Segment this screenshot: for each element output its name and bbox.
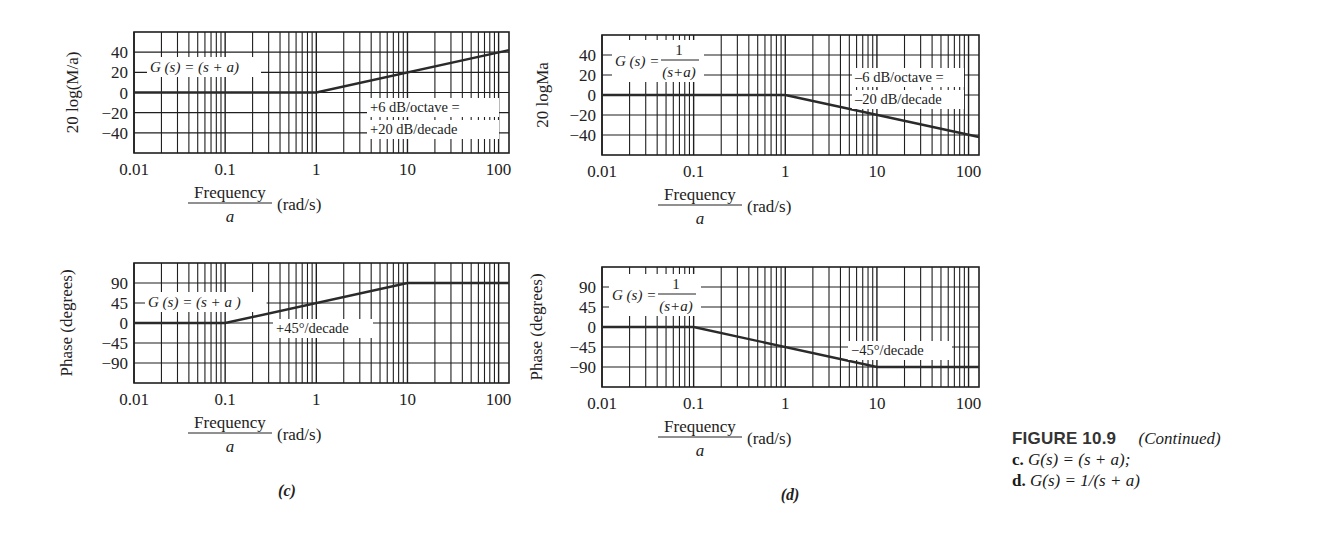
caption-text-c: G(s) = (s + a); bbox=[1028, 450, 1130, 469]
y-tick-label: 90 bbox=[579, 278, 596, 297]
y-tick-label: −90 bbox=[569, 358, 596, 377]
x-axis-unit: (rad/s) bbox=[277, 425, 321, 444]
transfer-function-lhs: G (s) = bbox=[615, 53, 659, 70]
y-tick-label: 20 bbox=[579, 66, 596, 85]
slope-annotation: –6 dB/octave = bbox=[854, 69, 944, 85]
y-tick-label: 0 bbox=[120, 314, 129, 333]
slope-annotation: +45°/decade bbox=[276, 320, 349, 336]
panel-label-d: (d) bbox=[781, 486, 800, 504]
x-tick-label: 0.1 bbox=[215, 390, 236, 409]
x-tick-label: 1 bbox=[781, 394, 790, 413]
x-axis-label-denominator: a bbox=[696, 209, 705, 228]
x-tick-label: 100 bbox=[956, 394, 982, 413]
transfer-function-denominator: (s+a) bbox=[659, 298, 692, 315]
figure-caption: FIGURE 10.9 (Continued) c. G(s) = (s + a… bbox=[1012, 428, 1221, 491]
transfer-function-lhs: G (s) = bbox=[612, 287, 656, 304]
figure-continued: (Continued) bbox=[1138, 429, 1220, 448]
x-axis-label-denominator: a bbox=[226, 207, 235, 226]
x-tick-label: 10 bbox=[868, 162, 885, 181]
y-tick-label: 40 bbox=[579, 46, 596, 65]
chart-c-phase: 90450−45−900.010.1110100Phase (degrees)F… bbox=[57, 263, 511, 456]
x-tick-label: 0.1 bbox=[683, 162, 704, 181]
y-tick-label: −40 bbox=[101, 124, 128, 143]
x-axis-unit: (rad/s) bbox=[277, 195, 321, 214]
transfer-function-numerator: 1 bbox=[672, 276, 680, 292]
x-tick-label: 0.1 bbox=[215, 160, 236, 179]
y-tick-label: −90 bbox=[101, 354, 128, 373]
chart-d-phase: 90450−45−900.010.1110100Phase (degrees)F… bbox=[527, 267, 981, 460]
x-axis-label-denominator: a bbox=[696, 441, 705, 460]
x-tick-label: 100 bbox=[486, 160, 512, 179]
x-tick-label: 10 bbox=[868, 394, 885, 413]
panel-label-c: (c) bbox=[278, 482, 296, 500]
y-axis-label: 20 logMa bbox=[533, 62, 552, 128]
figure-number: FIGURE 10.9 bbox=[1012, 429, 1116, 448]
x-axis-unit: (rad/s) bbox=[747, 197, 791, 216]
x-tick-label: 10 bbox=[399, 160, 416, 179]
x-tick-label: 100 bbox=[486, 390, 512, 409]
x-axis-label-numerator: Frequency bbox=[194, 413, 266, 432]
slope-annotation: –20 dB/decade bbox=[854, 91, 942, 107]
caption-text-d: G(s) = 1/(s + a) bbox=[1030, 471, 1140, 490]
y-axis-label: 20 log(M/a) bbox=[63, 52, 82, 134]
y-tick-label: 45 bbox=[111, 294, 128, 313]
y-tick-label: 45 bbox=[579, 298, 596, 317]
transfer-function-numerator: 1 bbox=[675, 42, 683, 58]
x-tick-label: 0.01 bbox=[119, 390, 149, 409]
y-tick-label: 0 bbox=[588, 86, 597, 105]
x-tick-label: 0.1 bbox=[683, 394, 704, 413]
slope-annotation: +20 dB/decade bbox=[370, 121, 458, 137]
caption-prefix-d: d. bbox=[1012, 471, 1026, 490]
x-axis-unit: (rad/s) bbox=[747, 429, 791, 448]
y-tick-label: −20 bbox=[569, 106, 596, 125]
y-tick-label: 90 bbox=[111, 274, 128, 293]
slope-annotation: +6 dB/octave = bbox=[370, 99, 460, 115]
y-tick-label: −45 bbox=[101, 334, 128, 353]
x-tick-label: 10 bbox=[399, 390, 416, 409]
slope-annotation: −45°/decade bbox=[851, 342, 924, 358]
transfer-function-label: G (s) = (s + a ) bbox=[148, 294, 241, 311]
caption-line-c: c. G(s) = (s + a); bbox=[1012, 449, 1221, 470]
x-tick-label: 1 bbox=[312, 160, 321, 179]
y-tick-label: 0 bbox=[120, 84, 129, 103]
x-axis-label-denominator: a bbox=[226, 437, 235, 456]
x-axis-label-numerator: Frequency bbox=[664, 417, 736, 436]
x-tick-label: 0.01 bbox=[587, 394, 617, 413]
x-tick-label: 100 bbox=[956, 162, 982, 181]
y-axis-label: Phase (degrees) bbox=[527, 273, 546, 380]
y-tick-label: −20 bbox=[101, 104, 128, 123]
caption-prefix-c: c. bbox=[1012, 450, 1024, 469]
x-axis-label-numerator: Frequency bbox=[664, 185, 736, 204]
x-tick-label: 0.01 bbox=[587, 162, 617, 181]
transfer-function-denominator: (s+a) bbox=[662, 64, 695, 81]
chart-d-magnitude: 40200−20−400.010.111010020 logMaFrequenc… bbox=[533, 35, 981, 228]
x-axis-label-numerator: Frequency bbox=[194, 183, 266, 202]
y-axis-label: Phase (degrees) bbox=[57, 269, 76, 376]
x-tick-label: 0.01 bbox=[119, 160, 149, 179]
y-tick-label: −45 bbox=[569, 338, 596, 357]
y-tick-label: 0 bbox=[588, 318, 597, 337]
x-tick-label: 1 bbox=[781, 162, 790, 181]
caption-line-d: d. G(s) = 1/(s + a) bbox=[1012, 470, 1221, 491]
transfer-function-label: G (s) = (s + a) bbox=[150, 59, 239, 76]
y-tick-label: −40 bbox=[569, 126, 596, 145]
y-tick-label: 40 bbox=[111, 43, 128, 62]
chart-c-magnitude: 40200−20−400.010.111010020 log(M/a)Frequ… bbox=[63, 32, 511, 226]
y-tick-label: 20 bbox=[111, 63, 128, 82]
x-tick-label: 1 bbox=[312, 390, 321, 409]
